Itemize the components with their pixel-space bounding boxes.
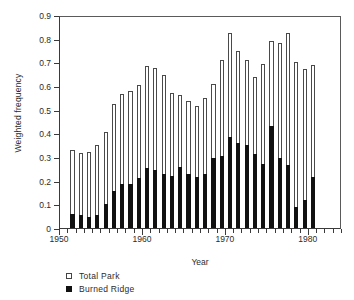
legend-item-total-park: Total Park bbox=[66, 269, 135, 282]
x-tick-mark-minor bbox=[241, 229, 242, 233]
y-tick-mark bbox=[54, 182, 59, 183]
bar-burned-ridge bbox=[70, 214, 74, 228]
x-tick-mark-minor bbox=[150, 229, 151, 233]
y-tick-label: 0.2 bbox=[18, 178, 51, 187]
x-tick-mark-minor bbox=[324, 229, 325, 233]
bar-burned-ridge bbox=[95, 215, 99, 228]
bar-group bbox=[87, 15, 91, 228]
bar-group bbox=[195, 15, 199, 228]
x-tick-mark-minor bbox=[76, 229, 77, 233]
y-tick-label: 0.6 bbox=[18, 83, 51, 92]
bar-group bbox=[261, 15, 265, 228]
y-tick-label: 0.5 bbox=[18, 107, 51, 116]
bar-group bbox=[186, 15, 190, 228]
x-tick-mark-minor bbox=[333, 229, 334, 233]
y-tick-mark bbox=[54, 87, 59, 88]
y-tick-label: 0.7 bbox=[18, 59, 51, 68]
bar-group bbox=[170, 15, 174, 228]
y-tick-label: 0.4 bbox=[18, 130, 51, 139]
x-tick-mark-minor bbox=[92, 229, 93, 233]
x-tick-mark-minor bbox=[341, 229, 342, 233]
y-tick-label: 0.8 bbox=[18, 36, 51, 45]
x-tick-mark-minor bbox=[192, 229, 193, 233]
x-tick-mark-minor bbox=[134, 229, 135, 233]
x-tick-mark-minor bbox=[100, 229, 101, 233]
y-tick-mark bbox=[54, 158, 59, 159]
bar-group bbox=[253, 15, 257, 228]
x-tick-mark-minor bbox=[291, 229, 292, 233]
bar-burned-ridge bbox=[269, 126, 273, 228]
x-tick-mark-minor bbox=[258, 229, 259, 233]
bar-burned-ridge bbox=[128, 184, 132, 228]
bar-group bbox=[211, 15, 215, 228]
x-tick-mark-minor bbox=[183, 229, 184, 233]
x-tick-mark-minor bbox=[109, 229, 110, 233]
x-tick-mark-minor bbox=[275, 229, 276, 233]
bar-group bbox=[311, 15, 315, 228]
filled-square-icon bbox=[66, 286, 72, 292]
x-tick-label: 1960 bbox=[122, 234, 162, 244]
bar-burned-ridge bbox=[145, 168, 149, 228]
x-tick-mark-minor bbox=[217, 229, 218, 233]
bar-group bbox=[120, 15, 124, 228]
x-tick-mark-minor bbox=[283, 229, 284, 233]
bar-burned-ridge bbox=[253, 154, 257, 228]
bar-group bbox=[178, 15, 182, 228]
bar-burned-ridge bbox=[178, 167, 182, 228]
bar-group bbox=[278, 15, 282, 228]
y-tick-label: 0.1 bbox=[18, 201, 51, 210]
x-tick-mark-minor bbox=[84, 229, 85, 233]
y-tick-mark bbox=[54, 205, 59, 206]
x-tick-mark-minor bbox=[250, 229, 251, 233]
bar-group bbox=[286, 15, 290, 228]
x-tick-mark-minor bbox=[125, 229, 126, 233]
y-tick-mark bbox=[54, 40, 59, 41]
bar-chart-figure: Weighted frequency 00.10.20.30.40.50.60.… bbox=[0, 0, 354, 300]
y-tick-mark bbox=[54, 16, 59, 17]
x-tick-mark-minor bbox=[208, 229, 209, 233]
bar-group bbox=[294, 15, 298, 228]
bar-total-park bbox=[294, 62, 298, 228]
y-tick-label: 0.3 bbox=[18, 154, 51, 163]
x-tick-mark-minor bbox=[117, 229, 118, 233]
bar-group bbox=[162, 15, 166, 228]
bar-burned-ridge bbox=[220, 156, 224, 228]
bar-burned-ridge bbox=[153, 170, 157, 228]
bar-burned-ridge bbox=[286, 165, 290, 228]
y-tick-mark bbox=[54, 63, 59, 64]
bar-burned-ridge bbox=[162, 174, 166, 228]
bar-burned-ridge bbox=[303, 200, 307, 228]
bar-burned-ridge bbox=[104, 204, 108, 228]
bar-burned-ridge bbox=[294, 207, 298, 228]
x-tick-label: 1980 bbox=[288, 234, 328, 244]
x-tick-mark-minor bbox=[167, 229, 168, 233]
x-tick-mark-minor bbox=[67, 229, 68, 233]
x-tick-mark-minor bbox=[266, 229, 267, 233]
x-tick-label: 1950 bbox=[39, 234, 79, 244]
bar-group bbox=[95, 15, 99, 228]
x-tick-mark-minor bbox=[300, 229, 301, 233]
bar-group bbox=[128, 15, 132, 228]
bar-group bbox=[153, 15, 157, 228]
bar-burned-ridge bbox=[195, 177, 199, 228]
legend-label-total-park: Total Park bbox=[79, 271, 120, 281]
open-square-icon bbox=[66, 273, 72, 279]
bar-burned-ridge bbox=[79, 215, 83, 228]
chart-legend: Total Park Burned Ridge bbox=[66, 269, 135, 295]
x-tick-mark-minor bbox=[159, 229, 160, 233]
bar-group bbox=[137, 15, 141, 228]
bar-group bbox=[303, 15, 307, 228]
x-tick-mark-minor bbox=[200, 229, 201, 233]
legend-label-burned-ridge: Burned Ridge bbox=[79, 284, 135, 294]
x-axis-label: Year bbox=[59, 257, 341, 267]
x-tick-mark-minor bbox=[233, 229, 234, 233]
y-tick-mark bbox=[54, 111, 59, 112]
bar-group bbox=[220, 15, 224, 228]
y-tick-label: 0.9 bbox=[18, 12, 51, 21]
bar-burned-ridge bbox=[112, 191, 116, 228]
bar-group bbox=[145, 15, 149, 228]
bar-group bbox=[203, 15, 207, 228]
bar-burned-ridge bbox=[236, 143, 240, 228]
bar-group bbox=[112, 15, 116, 228]
y-tick-mark bbox=[54, 134, 59, 135]
